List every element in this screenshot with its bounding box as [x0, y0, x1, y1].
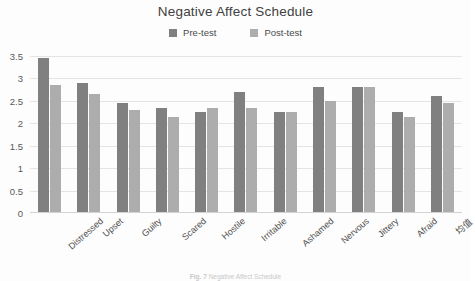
axis-baseline — [30, 212, 462, 213]
bar[interactable] — [274, 112, 285, 213]
figure-caption: Fig. 7 Negative Affect Schedule — [0, 273, 471, 280]
x-axis-tick-label: Afraid — [415, 216, 439, 239]
bar[interactable] — [325, 101, 336, 213]
chart-title: Negative Affect Schedule — [0, 4, 471, 19]
bar[interactable] — [117, 103, 128, 213]
y-axis-tick-label: 2 — [18, 118, 23, 129]
y-axis-tick-label: 3.5 — [10, 51, 23, 62]
figure-caption-text: Negative Affect Schedule — [209, 273, 282, 280]
bar-group — [266, 56, 305, 213]
bar-group — [226, 56, 265, 213]
legend-label: Pre-test — [183, 27, 216, 38]
bar[interactable] — [77, 83, 88, 213]
x-axis-tick-label: Ashamed — [301, 216, 336, 248]
bar[interactable] — [404, 117, 415, 213]
bars-layer — [30, 56, 462, 213]
x-axis-tick-label: Hostile — [219, 216, 246, 242]
x-axis-tick-label: Scared — [180, 216, 208, 242]
bar[interactable] — [38, 58, 49, 213]
bar[interactable] — [50, 85, 61, 213]
bar-group — [423, 56, 462, 213]
bar[interactable] — [234, 92, 245, 213]
bar-group — [109, 56, 148, 213]
y-axis-tick-label: 0 — [18, 208, 23, 219]
bar-group — [344, 56, 383, 213]
bar[interactable] — [129, 110, 140, 213]
y-axis-tick-label: 0.5 — [10, 185, 23, 196]
bar[interactable] — [352, 87, 363, 213]
y-axis-tick-label: 2.5 — [10, 95, 23, 106]
legend-entry-pre-test[interactable]: Pre-test — [169, 27, 216, 38]
bar[interactable] — [443, 103, 454, 213]
x-axis-tick-label: 均值 — [453, 216, 475, 238]
bar[interactable] — [313, 87, 324, 213]
bar-group — [383, 56, 422, 213]
y-axis-tick-label: 1.5 — [10, 140, 23, 151]
x-axis-tick-label: Distressed — [66, 216, 105, 251]
bar-group — [305, 56, 344, 213]
x-axis-tick-label: Upset — [101, 216, 125, 239]
x-axis: DistressedUpsetGuiltyScaredHostileIrrita… — [30, 214, 462, 266]
bar[interactable] — [286, 112, 297, 213]
bar-group — [69, 56, 108, 213]
y-axis-tick-label: 3 — [18, 73, 23, 84]
bar[interactable] — [207, 108, 218, 213]
legend-label: Post-test — [264, 27, 302, 38]
x-axis-tick-label: Jittery — [376, 216, 401, 239]
legend-swatch-icon — [250, 29, 258, 37]
x-axis-tick-label: Irritable — [259, 216, 288, 243]
y-axis-tick-label: 1 — [18, 163, 23, 174]
bar[interactable] — [392, 112, 403, 213]
figure-caption-label: Fig. 7 — [190, 273, 207, 280]
plot-area — [30, 56, 462, 213]
legend-swatch-icon — [169, 29, 177, 37]
x-axis-tick-label: Guilty — [140, 216, 164, 239]
bar-group — [187, 56, 226, 213]
bar[interactable] — [246, 108, 257, 213]
bar[interactable] — [168, 117, 179, 213]
bar[interactable] — [364, 87, 375, 213]
y-axis: 00.511.522.533.5 — [0, 56, 27, 213]
x-axis-tick-label: Nervous — [339, 216, 371, 246]
bar[interactable] — [89, 94, 100, 213]
bar-group — [148, 56, 187, 213]
legend-entry-post-test[interactable]: Post-test — [250, 27, 302, 38]
chart-legend: Pre-testPost-test — [0, 27, 471, 38]
bar[interactable] — [195, 112, 206, 213]
bar-group — [30, 56, 69, 213]
bar[interactable] — [431, 96, 442, 213]
bar[interactable] — [156, 108, 167, 213]
